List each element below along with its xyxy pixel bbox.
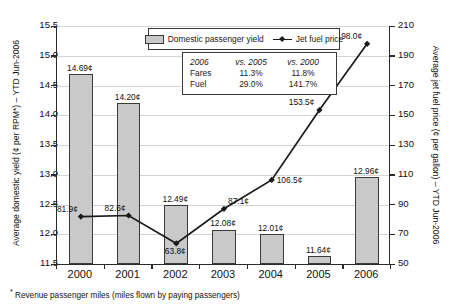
footnote-marker: * xyxy=(10,288,13,295)
bar-value-label-2006: 12.96¢ xyxy=(340,166,392,176)
stats-header-year: 2006 xyxy=(190,56,225,67)
gridline xyxy=(57,264,389,265)
bar-value-label-2003: 12.08¢ xyxy=(197,218,249,228)
x-axis-tick-mark xyxy=(390,264,391,269)
bar-value-label-2002: 12.49¢ xyxy=(149,194,201,204)
right-axis-tick-label: 210 xyxy=(398,19,414,30)
legend-item-line: Jet fuel price xyxy=(273,34,343,44)
right-axis-tick-label: 50 xyxy=(398,257,409,268)
x-axis-label-2006: 2006 xyxy=(336,268,396,280)
right-axis-tick-label: 110 xyxy=(398,168,413,179)
right-axis-tick-label: 150 xyxy=(398,108,414,119)
chart-figure: Average domestic yield (¢ per RPM*) – YT… xyxy=(0,0,451,308)
chart-legend: Domestic passenger yield Jet fuel price xyxy=(148,28,340,50)
right-axis-tick-label: 130 xyxy=(398,138,414,149)
stats-table: 2006 vs. 2005 vs. 2000 Fares 11.3% 11.8%… xyxy=(182,52,337,95)
line-value-label-2000: 81.9¢ xyxy=(50,204,78,214)
right-axis-tick-label: 170 xyxy=(398,79,414,90)
line-marker-icon xyxy=(273,36,292,43)
table-row: Fuel 29.0% 141.7% xyxy=(190,79,329,90)
legend-item-bar: Domestic passenger yield xyxy=(145,34,264,44)
bar-value-label-2004: 12.01¢ xyxy=(245,223,297,233)
footnote: * Revenue passenger miles (miles flown b… xyxy=(10,288,240,300)
stats-row-fares-vs2000: 11.8% xyxy=(277,67,329,78)
stats-row-fuel-vs2005: 29.0% xyxy=(225,79,277,90)
line-value-label-2002: 63.8¢ xyxy=(161,246,189,256)
stats-header-vs2000: vs. 2000 xyxy=(277,56,329,67)
x-axis-tick-mark xyxy=(56,264,57,269)
left-axis-title: Average domestic yield (¢ per RPM*) – YT… xyxy=(11,23,21,263)
stats-row-fuel-label: Fuel xyxy=(190,79,225,90)
right-axis-tick-label: 190 xyxy=(398,49,414,60)
legend-label-bar: Domestic passenger yield xyxy=(168,34,264,44)
x-axis-tick-mark xyxy=(104,264,105,269)
x-axis-tick-mark xyxy=(247,264,248,269)
stats-header-vs2005: vs. 2005 xyxy=(225,56,277,67)
line-value-label-2003: 87.1¢ xyxy=(228,196,262,206)
x-axis-tick-mark xyxy=(199,264,200,269)
bar-value-label-2001: 14.20¢ xyxy=(102,92,154,102)
line-value-label-2005: 153.5¢ xyxy=(280,97,314,107)
x-axis-tick-mark xyxy=(295,264,296,269)
right-axis-tick-label: 70 xyxy=(398,227,409,238)
right-axis-tick-label: 90 xyxy=(398,198,409,209)
stats-row-fuel-vs2000: 141.7% xyxy=(277,79,329,90)
bar-swatch-icon xyxy=(145,35,164,44)
stats-row-fares-vs2005: 11.3% xyxy=(225,67,277,78)
line-marker-2000 xyxy=(78,213,84,219)
line-value-label-2004: 106.5¢ xyxy=(277,175,311,185)
bar-value-label-2000: 14.69¢ xyxy=(54,63,106,73)
footnote-text: Revenue passenger miles (miles flown by … xyxy=(15,291,240,300)
table-row: Fares 11.3% 11.8% xyxy=(190,67,329,78)
bar-value-label-2005: 11.64¢ xyxy=(292,245,344,255)
line-value-label-2001: 82.6¢ xyxy=(98,203,126,213)
right-axis-title: Average jet fuel price (¢ per gallon) – … xyxy=(431,25,441,265)
stats-row-fares-label: Fares xyxy=(190,67,225,78)
legend-label-line: Jet fuel price xyxy=(296,34,343,44)
table-row: 2006 vs. 2005 vs. 2000 xyxy=(190,56,329,67)
x-axis-tick-mark xyxy=(151,264,152,269)
x-axis-tick-mark xyxy=(342,264,343,269)
